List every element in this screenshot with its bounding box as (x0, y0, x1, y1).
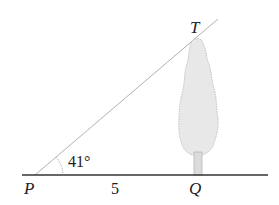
distance-label: 5 (111, 180, 119, 197)
point-label-t: T (190, 18, 201, 37)
angle-label: 41° (68, 153, 90, 170)
point-label-q: Q (189, 179, 201, 198)
diagram-canvas: T 41° P 5 Q (0, 0, 279, 205)
tree-foliage-icon (179, 38, 218, 155)
angle-arc (56, 157, 63, 175)
point-label-p: P (23, 179, 34, 198)
tree-trunk (194, 152, 202, 175)
